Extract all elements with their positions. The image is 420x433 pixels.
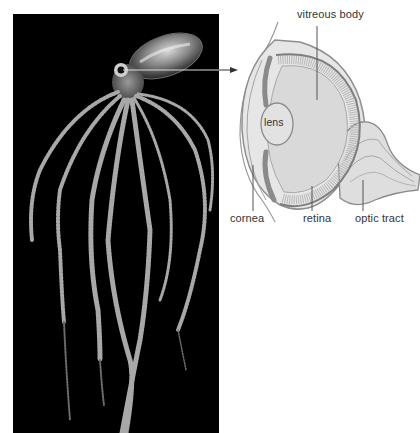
label-vitreous-body: vitreous body — [297, 8, 364, 20]
label-retina: retina — [303, 212, 331, 224]
figure: vitreous body lens cornea retina optic t… — [0, 0, 420, 433]
label-cornea: cornea — [230, 212, 264, 224]
label-lens: lens — [264, 116, 284, 128]
label-optic-tract: optic tract — [355, 212, 404, 224]
